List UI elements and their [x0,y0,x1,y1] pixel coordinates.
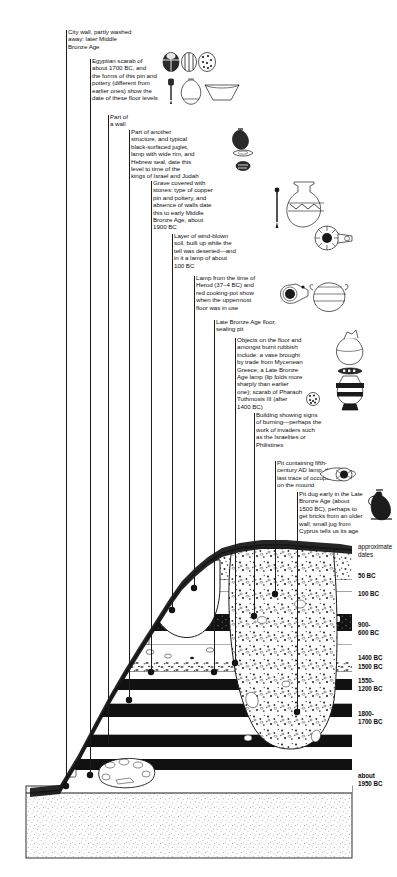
scarab-icon [199,53,216,72]
hebrew-seal-icon [236,162,250,171]
copper-pin-icon [275,188,280,228]
scarab-icon [182,53,197,72]
hellenistic-lamp-icon [315,226,352,250]
tuthmosis-scarab-icon [307,393,320,406]
lb-vase-icon [336,376,364,410]
artifact-illustrations [0,0,397,877]
herodian-lamp-icon [280,284,308,303]
wide-rim-lamp-icon [233,150,253,156]
black-juglet-icon [233,129,249,149]
byzantine-lamp-icon [320,468,356,481]
mb-jar-icon [287,182,324,227]
cooking-pot-icon [310,283,348,312]
diagram-canvas: City wall, partly washed away: later Mid… [0,0,397,877]
bowl-icon [205,85,239,100]
copper-pin-icon [169,79,174,104]
juglet-icon [181,79,201,104]
lb-lamp-icon [338,368,362,374]
cypriot-jug-icon [369,490,392,520]
mycenaean-vase-icon [336,330,362,365]
scarab-icon [163,53,179,72]
